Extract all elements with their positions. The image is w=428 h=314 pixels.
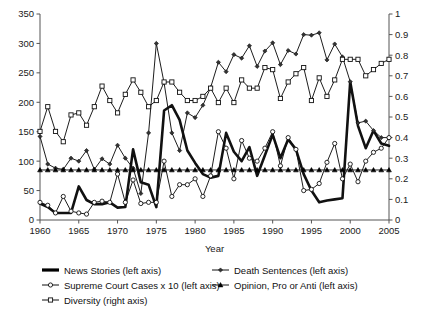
series-point — [317, 76, 321, 80]
right-axis-tick-label: 0.6 — [395, 91, 408, 102]
series-point — [170, 80, 174, 84]
series-point — [302, 33, 306, 37]
right-axis-tick-label: 0.5 — [395, 111, 408, 122]
series-point — [247, 86, 251, 90]
legend-item[interactable]: Opinion, Pro or Anti (left axis) — [212, 280, 358, 291]
series-point — [209, 86, 213, 90]
series-point — [348, 57, 352, 61]
series-point — [146, 131, 150, 135]
left-axis-tick-label: 250 — [18, 67, 34, 78]
series-point — [294, 52, 298, 56]
series-point — [255, 64, 259, 68]
series-point — [286, 80, 290, 84]
series-point — [201, 94, 205, 98]
x-axis-tick-label: 1980 — [185, 225, 206, 236]
series-point — [333, 42, 337, 46]
series-point — [232, 53, 236, 57]
series-point — [216, 100, 220, 104]
series-point — [154, 98, 158, 102]
series-point — [209, 174, 213, 178]
series-point — [356, 57, 360, 61]
series-point — [216, 130, 220, 134]
series-2 — [38, 31, 391, 196]
x-axis-tick-label: 1965 — [68, 225, 89, 236]
series-point — [379, 61, 383, 65]
series-point — [77, 111, 81, 115]
series-point — [115, 143, 119, 147]
series-point — [139, 191, 143, 195]
x-axis-tick-label: 2005 — [378, 225, 399, 236]
x-axis-tick-label: 1975 — [146, 225, 167, 236]
series-point — [170, 194, 174, 198]
right-axis-tick-label: 0.4 — [395, 132, 408, 143]
left-axis-tick-label: 150 — [18, 126, 34, 137]
series-point — [317, 31, 321, 35]
series-line — [40, 59, 389, 141]
legend-item[interactable]: Supreme Court Cases x 10 (left axis) — [42, 280, 220, 291]
right-axis-tick-label: 0.8 — [395, 50, 408, 61]
series-point — [286, 48, 290, 52]
series-point — [53, 211, 57, 215]
series-point — [240, 138, 244, 142]
series-point — [123, 92, 127, 96]
series-point — [348, 162, 352, 166]
series-point — [294, 72, 298, 76]
right-axis-tick-label: 0.7 — [395, 70, 408, 81]
right-axis-tick-label: 1 — [395, 8, 400, 19]
series-point — [240, 78, 244, 82]
series-point — [131, 178, 135, 182]
series-point — [139, 201, 143, 205]
series-point — [178, 148, 182, 152]
legend-label: News Stories (left axis) — [64, 265, 161, 276]
series-point — [154, 41, 158, 45]
series-point — [100, 199, 104, 203]
series-point — [84, 123, 88, 127]
series-point — [309, 33, 313, 37]
series-point — [325, 160, 329, 164]
series-point — [371, 68, 375, 72]
chart-container: 05010015020025030035000.10.20.30.40.50.6… — [0, 0, 428, 314]
series-point — [185, 183, 189, 187]
series-4 — [38, 168, 392, 172]
x-axis-tick-label: 1990 — [262, 225, 283, 236]
right-axis-tick-label: 0.9 — [395, 29, 408, 40]
series-point — [115, 172, 119, 176]
series-point — [92, 105, 96, 109]
series-point — [53, 129, 57, 133]
legend-label: Death Sentences (left axis) — [234, 265, 348, 276]
series-point — [302, 188, 306, 192]
legend-item[interactable]: News Stories (left axis) — [42, 265, 161, 276]
series-point — [69, 209, 73, 213]
legend-marker-square-icon — [48, 298, 52, 302]
series-point — [340, 177, 344, 181]
series-point — [193, 177, 197, 181]
axes-layer — [37, 14, 393, 224]
x-axis-tick-label: 1970 — [107, 225, 128, 236]
series-point — [387, 57, 391, 61]
series-point — [302, 65, 306, 69]
series-point — [178, 90, 182, 94]
legend-item[interactable]: Death Sentences (left axis) — [212, 265, 348, 276]
series-point — [333, 141, 337, 145]
series-5 — [38, 57, 391, 144]
x-axis-tick-label: 1985 — [223, 225, 244, 236]
series-point — [317, 181, 321, 185]
legend-item[interactable]: Diversity (right axis) — [42, 295, 147, 306]
legend-label: Supreme Court Cases x 10 (left axis) — [64, 280, 220, 291]
series-point — [77, 211, 81, 215]
series-point — [123, 200, 127, 204]
series-point — [201, 194, 205, 198]
series-point — [146, 200, 150, 204]
series-point — [115, 111, 119, 115]
series-point — [178, 183, 182, 187]
series-point — [364, 159, 368, 163]
series-point — [61, 194, 65, 198]
series-point — [309, 187, 313, 191]
series-point — [131, 78, 135, 82]
series-point — [185, 111, 189, 115]
series-line — [40, 82, 389, 213]
series-point — [108, 98, 112, 102]
series-point — [38, 129, 42, 133]
series-point — [162, 80, 166, 84]
series-point — [278, 63, 282, 67]
